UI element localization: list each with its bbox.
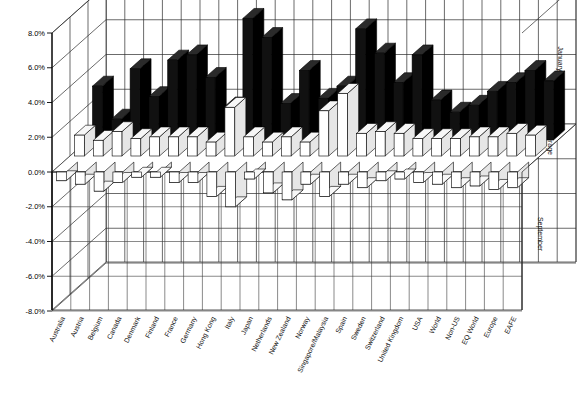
y-axis-tick-label: 4.0%	[28, 98, 45, 107]
bar-front	[112, 132, 122, 156]
bar-front	[188, 172, 198, 182]
x-axis-label: Austria	[69, 315, 85, 338]
bar-front	[113, 172, 123, 182]
x-axis-label: Finland	[144, 315, 160, 339]
bar-front	[395, 172, 405, 179]
bar-front	[526, 135, 536, 156]
bar-front	[226, 172, 236, 207]
bar-front	[489, 172, 499, 189]
bar-front	[507, 133, 517, 156]
bar-1-14	[338, 84, 359, 156]
bar-front	[94, 172, 104, 191]
depth-axis-label: September	[536, 217, 544, 252]
depth-axis-label: January	[556, 47, 564, 72]
y-axis: 8.0%6.0%4.0%2.0%0.0%-2.0%-4.0%-6.0%-8.0%	[25, 29, 52, 316]
bar-front	[75, 135, 85, 156]
depth-axis-label: Average	[546, 129, 554, 155]
y-axis-tick-label: 2.0%	[28, 133, 45, 142]
bar-front	[300, 142, 310, 156]
x-axis-label: Belgium	[86, 315, 104, 341]
y-axis-tick-label: 8.0%	[28, 29, 45, 38]
bar-front	[319, 111, 329, 156]
bar-front	[488, 137, 498, 156]
bar-front	[451, 139, 461, 156]
y-axis-tick-label: -4.0%	[25, 237, 45, 246]
bar-side	[553, 71, 564, 140]
bar-1-13	[319, 101, 340, 156]
bar-front	[206, 142, 216, 156]
bar-front	[263, 172, 273, 193]
x-axis-label: EQ World	[460, 315, 480, 346]
x-axis-label: Denmark	[123, 315, 142, 344]
bar-front	[338, 93, 348, 156]
bar-0-9	[262, 28, 283, 140]
bar-front	[376, 172, 386, 181]
bar-front	[263, 142, 273, 156]
bar-front	[470, 172, 480, 186]
bar-front	[281, 137, 291, 156]
chart-canvas: 8.0%6.0%4.0%2.0%0.0%-2.0%-4.0%-6.0%-8.0%…	[0, 0, 578, 398]
bar-front	[433, 172, 443, 184]
y-axis-tick-label: -6.0%	[25, 272, 45, 281]
bar-front	[169, 137, 179, 156]
y-axis-tick-label: -8.0%	[25, 307, 45, 316]
bar-front	[169, 172, 179, 182]
bar-front	[244, 137, 254, 156]
bar-front	[339, 172, 349, 184]
bar-front	[131, 139, 141, 156]
bar-front	[357, 172, 367, 188]
bar-front	[394, 133, 404, 156]
x-axis-label: Japan	[240, 315, 256, 336]
bar-front	[508, 172, 518, 188]
bar-front	[469, 137, 479, 156]
bar-0-5	[187, 45, 208, 140]
x-axis-label: Non-US	[444, 315, 461, 341]
x-axis-label: Europe	[482, 315, 499, 339]
bar-front	[150, 137, 160, 156]
bar-front	[262, 37, 272, 140]
x-axis-label: EAFE	[503, 315, 517, 335]
bar-front	[75, 172, 85, 184]
y-axis-tick-label: 0.0%	[28, 168, 45, 177]
x-axis-label: Canada	[106, 315, 123, 340]
bar-front	[357, 133, 367, 156]
bar-front	[451, 172, 461, 188]
x-axis-label: Hong Kong	[195, 315, 218, 350]
bar-front	[245, 172, 255, 179]
bar-front	[132, 172, 142, 177]
x-axis-label: Italy	[223, 315, 236, 330]
x-axis-label: Germany	[179, 315, 199, 345]
x-axis-labels: AustraliaAustriaBelgiumCanadaDenmarkFinl…	[48, 315, 518, 374]
y-axis-tick-label: -2.0%	[25, 202, 45, 211]
x-axis-label: World	[428, 315, 442, 334]
bar-1-8	[225, 97, 246, 156]
bar-front	[57, 172, 67, 181]
x-axis-label: Norway	[294, 315, 312, 340]
bar-front	[413, 139, 423, 156]
x-axis-label: Australia	[48, 315, 66, 343]
x-axis-label: Spain	[334, 315, 349, 335]
bar-front	[301, 172, 311, 184]
x-axis-label: France	[163, 315, 179, 338]
bar-front	[414, 172, 424, 182]
bar-front	[151, 172, 161, 177]
bar-front	[282, 172, 292, 200]
bar-front	[93, 140, 103, 156]
y-axis-tick-label: 6.0%	[28, 63, 45, 72]
bar-front	[207, 172, 217, 196]
bar-front	[320, 172, 330, 196]
bar-front	[375, 132, 385, 156]
x-axis-label: Sweden	[350, 315, 367, 341]
chart-root: . . . . 8.0%6.0%4.0%2.0%0.0%-2.0%-4.0%-6…	[0, 0, 578, 398]
bar-front	[432, 139, 442, 156]
bar-front	[187, 137, 197, 156]
x-axis-label: USA	[411, 315, 424, 331]
bar-front	[225, 107, 235, 156]
